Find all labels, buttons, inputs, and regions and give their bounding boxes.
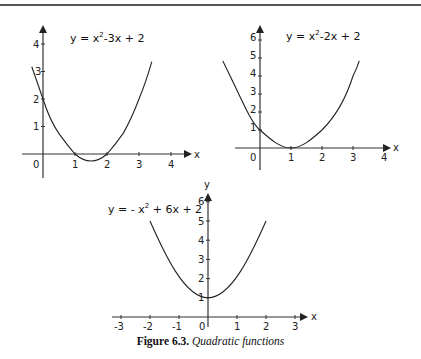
g1-xtick-3: 3 bbox=[136, 159, 142, 170]
figure-caption: Figure 6.3. Quadratic functions bbox=[0, 335, 421, 347]
g1-xtick-2: 2 bbox=[104, 159, 110, 170]
g1-equation: y = x2-3x + 2 bbox=[70, 31, 144, 45]
quadratic-functions-figure: x 0 1 2 3 4 1 2 3 4 y = x2-3x + 2 x bbox=[0, 0, 421, 359]
g3-equation: y = - x2 + 6x + 2 bbox=[108, 202, 202, 216]
g3-ytick-4: 4 bbox=[198, 235, 204, 246]
g2-equation: y = x2-2x + 2 bbox=[286, 29, 360, 43]
g2-ytick-3: 3 bbox=[250, 86, 256, 97]
g3-ytick-5: 5 bbox=[198, 216, 204, 227]
g3-xtick-0: 0 bbox=[199, 321, 205, 332]
g3-ytick-2: 2 bbox=[198, 273, 204, 284]
g3-xtick-1: 1 bbox=[234, 321, 240, 332]
g1-xtick-1: 1 bbox=[72, 159, 78, 170]
g1-ytick-4: 4 bbox=[33, 39, 39, 50]
g2-curve bbox=[223, 61, 359, 148]
g3-xtick-3: 3 bbox=[292, 321, 298, 332]
g3-xtick-neg2: -2 bbox=[143, 321, 153, 332]
figure-caption-text: Quadratic functions bbox=[192, 335, 284, 347]
g2-xtick-3: 3 bbox=[350, 152, 356, 163]
g1-xtick-0: 0 bbox=[33, 159, 39, 170]
g1-ytick-3: 3 bbox=[35, 66, 41, 77]
graph-1: x 0 1 2 3 4 1 2 3 4 y = x2-3x + 2 bbox=[22, 27, 200, 178]
g2-ytick-1: 1 bbox=[250, 122, 256, 133]
g3-x-axis-label: x bbox=[311, 311, 317, 322]
g2-ytick-2: 2 bbox=[250, 104, 256, 115]
g1-xtick-4: 4 bbox=[168, 159, 174, 170]
g2-x-axis-label: x bbox=[393, 142, 399, 153]
g1-ytick-1: 1 bbox=[33, 121, 39, 132]
graph-3: x y -3 -2 -1 0 1 2 3 1 2 3 4 5 6 y = - x… bbox=[108, 179, 317, 332]
graph-2: x 0 1 2 3 4 1 2 3 4 5 6 y = x2-2x + 2 bbox=[223, 27, 399, 170]
g3-ytick-3: 3 bbox=[198, 254, 204, 265]
g1-x-axis-label: x bbox=[194, 149, 200, 160]
g3-y-axis-label: y bbox=[204, 179, 210, 190]
g2-xtick-4: 4 bbox=[381, 152, 387, 163]
g2-ytick-5: 5 bbox=[250, 50, 256, 61]
g3-xtick-neg3: -3 bbox=[114, 321, 124, 332]
g3-xtick-neg1: -1 bbox=[172, 321, 182, 332]
g2-xtick-1: 1 bbox=[288, 152, 294, 163]
g1-ytick-2: 2 bbox=[33, 94, 39, 105]
g1-curve bbox=[32, 62, 152, 161]
g2-xtick-2: 2 bbox=[319, 152, 325, 163]
g2-xtick-0: 0 bbox=[250, 152, 256, 163]
figure-caption-label: Figure 6.3. bbox=[137, 335, 190, 347]
g2-ytick-4: 4 bbox=[250, 68, 256, 79]
g2-ytick-6: 6 bbox=[250, 32, 256, 43]
g3-xtick-2: 2 bbox=[263, 321, 269, 332]
